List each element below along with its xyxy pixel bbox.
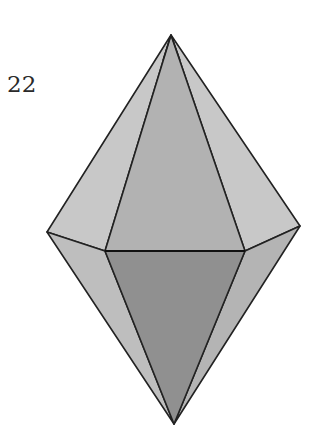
- bipyramid-diagram: [0, 0, 327, 447]
